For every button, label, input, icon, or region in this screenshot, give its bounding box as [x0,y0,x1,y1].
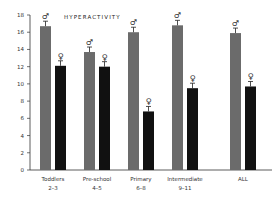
y-tick-label: 16 [17,29,24,35]
bar-male [230,33,241,170]
category-label: Intermediate [167,176,203,182]
y-tick-label: 8 [21,98,25,104]
female-symbol-icon: ♀ [58,52,64,61]
chart-title: HYPERACTIVITY [64,14,121,20]
category-label: Toddlers [41,176,65,182]
y-tick-label: 2 [21,150,25,156]
bar-male [40,26,51,170]
female-symbol-icon: ♀ [190,74,196,83]
bar-female [245,86,256,170]
y-tick-label: 18 [17,12,24,18]
hyperactivity-bar-chart: 024681012141618HYPERACTIVITY♂♀Toddlers2–… [0,0,279,198]
category-label: 4–5 [92,185,102,191]
male-symbol-icon: ♂ [42,12,49,21]
female-symbol-icon: ♀ [146,97,152,106]
category-label: 6–8 [136,185,146,191]
category-label: 9–11 [178,185,191,191]
bar-female [55,66,66,170]
male-symbol-icon: ♂ [174,11,181,20]
male-symbol-icon: ♂ [130,18,137,27]
bar-male [128,32,139,170]
y-tick-label: 4 [21,133,25,139]
y-tick-label: 10 [17,81,24,87]
female-symbol-icon: ♀ [248,72,254,81]
female-symbol-icon: ♀ [102,53,108,62]
y-tick-label: 0 [21,167,25,173]
y-tick-label: 14 [17,46,24,52]
y-tick-label: 6 [21,115,25,121]
male-symbol-icon: ♂ [232,19,239,28]
bar-male [172,25,183,170]
bar-female [99,67,110,170]
y-tick-label: 12 [17,64,24,70]
male-symbol-icon: ♂ [86,38,93,47]
category-label: Pre-school [83,176,112,182]
bar-female [187,88,198,170]
bar-female [143,111,154,170]
bar-male [84,52,95,170]
category-label: Primary [130,176,152,183]
category-label: ALL [238,176,249,182]
category-label: 2–3 [48,185,58,191]
